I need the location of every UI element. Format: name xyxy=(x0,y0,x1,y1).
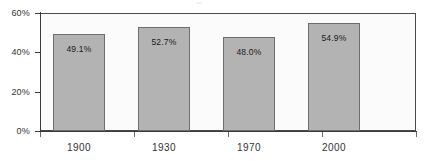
bar-value-1930: 52.7% xyxy=(138,37,190,47)
y-axis-label-60: 60% xyxy=(0,8,30,18)
bar-value-1900: 49.1% xyxy=(53,44,105,54)
y-tick-40 xyxy=(35,52,40,53)
x-tick-3 xyxy=(322,132,323,137)
x-axis-label-1970: 1970 xyxy=(207,142,291,153)
y-axis-label-0: 0% xyxy=(0,126,30,136)
y-axis-label-40: 40% xyxy=(0,47,30,57)
x-axis-label-1930: 1930 xyxy=(122,142,206,153)
image-artifact xyxy=(196,2,202,4)
x-tick-0 xyxy=(40,132,41,137)
x-axis-label-1900: 1900 xyxy=(37,142,121,153)
y-tick-60 xyxy=(35,13,40,14)
y-axis-line xyxy=(40,12,41,132)
x-tick-2 xyxy=(228,132,229,137)
x-tick-4 xyxy=(416,132,417,137)
y-axis-label-20: 20% xyxy=(0,87,30,97)
bar-value-2000: 54.9% xyxy=(308,33,360,43)
bar-chart: 60% 40% 20% 0% 49.1% 52.7% 48.0% 54.9% 1… xyxy=(0,0,425,166)
bar-value-1970: 48.0% xyxy=(223,47,275,57)
y-tick-20 xyxy=(35,92,40,93)
x-tick-1 xyxy=(134,132,135,137)
x-axis-label-2000: 2000 xyxy=(292,142,376,153)
